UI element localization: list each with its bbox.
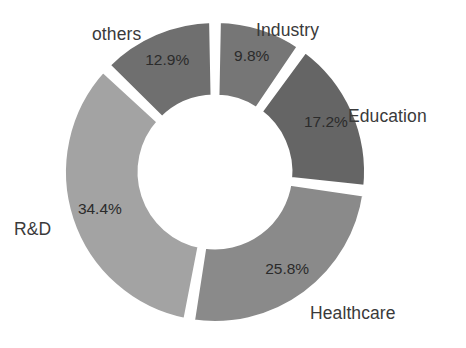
slice-category-label-rd: R&D bbox=[14, 219, 51, 240]
slice-value-label-education: 17.2% bbox=[304, 113, 348, 130]
slice-category-label-education: Education bbox=[348, 106, 427, 127]
slice-value-label-healthcare: 25.8% bbox=[265, 260, 309, 277]
donut-chart-svg: 9.8%17.2%25.8%34.4%12.9% bbox=[0, 0, 466, 348]
slice-category-label-others: others bbox=[92, 24, 141, 45]
slice-value-label-industry: 9.8% bbox=[234, 47, 270, 64]
donut-slices-group bbox=[63, 20, 367, 324]
slice-value-label-r-d: 34.4% bbox=[78, 200, 122, 217]
slice-value-label-others: 12.9% bbox=[145, 51, 189, 68]
slice-category-label-healthcare: Healthcare bbox=[310, 303, 396, 324]
slice-category-label-industry: Industry bbox=[256, 20, 319, 41]
donut-chart: 9.8%17.2%25.8%34.4%12.9% others Industry… bbox=[0, 0, 466, 348]
